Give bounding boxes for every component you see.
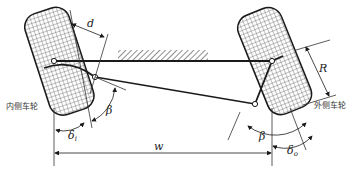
R-label: R: [319, 63, 327, 74]
delta-o-label: δo: [287, 145, 298, 158]
right-kingpin: [269, 58, 274, 63]
beta-left-label: β: [106, 105, 112, 116]
steering-geometry-diagram: 内侧车轮 外侧车轮 d R w β β δi δo: [0, 0, 352, 172]
delta-i-label: δi: [68, 130, 77, 143]
beta-right-label: β: [259, 131, 265, 142]
outer-wheel-label: 外侧车轮: [314, 102, 346, 110]
w-label: w: [154, 141, 163, 152]
inner-wheel-label: 内侧车轮: [6, 103, 38, 111]
diagram-canvas: [0, 0, 352, 172]
tie-rod: [95, 77, 255, 104]
right-arm-joint: [252, 101, 257, 106]
left-kingpin: [51, 58, 56, 63]
d-label: d: [87, 18, 94, 29]
beta-right-arc: [248, 123, 306, 135]
ground-hatch: [118, 50, 208, 60]
